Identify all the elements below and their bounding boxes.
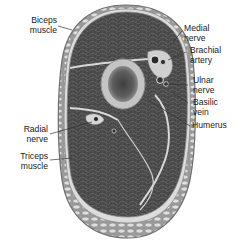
muscle-mass <box>67 12 187 217</box>
ulnar-nerve-vessel <box>157 77 164 84</box>
label-triceps-muscle: Triceps muscle <box>12 152 48 171</box>
label-medial-nerve: Medial nerve <box>184 24 209 43</box>
label-humerus: Humerus <box>192 121 227 131</box>
label-ulnar-nerve: Ulnar nerve <box>193 76 215 95</box>
label-brachial-artery: Brachial artery <box>190 46 221 65</box>
label-radial-nerve: Radial nerve <box>12 125 48 144</box>
label-biceps-muscle: Biceps muscle <box>25 16 57 35</box>
label-basilic-vein: Basilic vein <box>193 98 218 117</box>
brachial-artery-vessel <box>151 56 159 64</box>
bone-marrow <box>108 66 138 102</box>
arm-cross-section-diagram: Biceps muscle Medial nerve Brachial arte… <box>0 0 239 252</box>
